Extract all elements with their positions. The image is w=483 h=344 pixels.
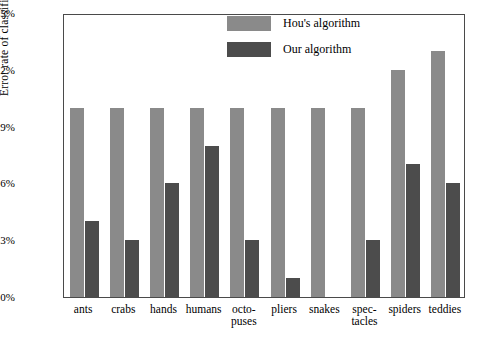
legend: Hou's algorithm Our algorithm [227, 13, 360, 65]
bar-spectacles-series0 [351, 108, 365, 297]
bar-pliers-series1 [286, 278, 300, 297]
bar-humans-series1 [205, 146, 219, 297]
legend-label-hous-algorithm: Hou's algorithm [283, 16, 360, 31]
bar-pliers-series0 [271, 108, 285, 297]
bar-teddies-series1 [446, 183, 460, 297]
y-tick-label: 12% [0, 65, 15, 76]
bar-chart: Error rate of classification 0%3%6%9%12%… [0, 0, 483, 344]
y-tick-label: 6% [0, 178, 15, 189]
x-tick-label: teddies [410, 303, 480, 315]
legend-swatch-our-algorithm [227, 42, 271, 57]
y-tick-label: 0% [0, 292, 15, 303]
bar-spectacles-series1 [366, 240, 380, 297]
bar-spiders-series1 [406, 164, 420, 297]
bar-octopuses-series0 [230, 108, 244, 297]
bar-crabs-series0 [110, 108, 124, 297]
bar-ants-series1 [85, 221, 99, 297]
x-tick-label-line: teddies [410, 303, 480, 315]
y-tick-label: 15% [0, 8, 15, 19]
bar-hands-series1 [165, 183, 179, 297]
bar-snakes-series0 [311, 108, 325, 297]
x-tick-label-line: puses [209, 315, 279, 327]
bar-ants-series0 [70, 108, 84, 297]
bar-teddies-series0 [431, 51, 445, 297]
y-tick-label: 3% [0, 235, 15, 246]
legend-item: Hou's algorithm [227, 13, 360, 33]
bar-crabs-series1 [125, 240, 139, 297]
y-tick-label: 9% [0, 122, 15, 133]
bar-octopuses-series1 [245, 240, 259, 297]
bar-humans-series0 [190, 108, 204, 297]
legend-swatch-hous-algorithm [227, 16, 271, 31]
x-tick-label-line: tacles [330, 315, 400, 327]
legend-label-our-algorithm: Our algorithm [283, 42, 351, 57]
bar-hands-series0 [150, 108, 164, 297]
bar-spiders-series0 [391, 70, 405, 297]
legend-item: Our algorithm [227, 39, 360, 59]
